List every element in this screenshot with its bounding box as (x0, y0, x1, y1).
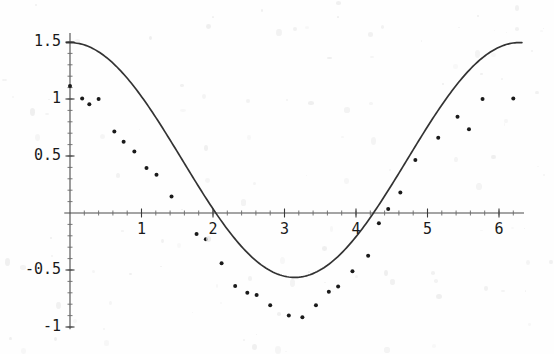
noise-speck (476, 183, 482, 190)
noise-speck (540, 30, 543, 32)
noise-speck (160, 266, 162, 268)
noise-speck (253, 182, 256, 185)
chart-plot-area (0, 0, 554, 354)
noise-speck (121, 230, 123, 232)
noise-speck (212, 16, 215, 17)
noise-speck (511, 227, 514, 229)
noise-speck (371, 137, 376, 145)
y-axis-tick-label: 1.5 (34, 34, 61, 49)
x-axis-tick-label: 2 (193, 222, 233, 237)
noise-speck (528, 323, 530, 326)
noise-speck (21, 348, 26, 354)
data-point (97, 97, 101, 101)
noise-speck (116, 173, 120, 178)
noise-speck (247, 135, 251, 140)
x-axis (64, 209, 524, 218)
noise-speck (51, 255, 53, 257)
noise-speck (344, 107, 350, 113)
noise-speck (180, 109, 185, 112)
noise-speck (341, 136, 344, 138)
noise-speck (549, 260, 553, 265)
data-point (481, 97, 485, 101)
noise-speck (9, 337, 12, 340)
noise-speck (54, 337, 57, 341)
noise-speck (56, 302, 61, 309)
noise-speck (35, 134, 41, 142)
noise-speck (275, 346, 281, 354)
noise-speck (252, 344, 257, 350)
x-axis-tick-label: 1 (122, 222, 162, 237)
noise-speck (368, 32, 373, 37)
data-point (245, 291, 249, 295)
noise-speck (285, 351, 287, 352)
noise-speck (204, 145, 208, 151)
x-axis-tick-label: 3 (265, 222, 305, 237)
data-point (132, 149, 136, 153)
noise-speck (327, 57, 332, 60)
x-axis-tick-label: 5 (408, 222, 448, 237)
noise-speck (75, 39, 80, 43)
noise-speck (30, 108, 35, 115)
noise-speck (421, 40, 423, 42)
noise-speck (248, 276, 252, 281)
data-point (350, 269, 354, 273)
data-point (386, 207, 390, 211)
data-point (255, 293, 259, 297)
noise-speck (290, 279, 295, 287)
data-point (233, 284, 237, 288)
y-axis-tick-label: 1 (52, 91, 61, 106)
noise-speck (2, 79, 7, 82)
data-point (511, 96, 515, 100)
data-point (68, 84, 72, 88)
data-point (467, 127, 471, 131)
noise-speck (537, 166, 539, 168)
noise-speck (515, 27, 519, 31)
noise-speck (324, 282, 325, 283)
noise-speck (246, 99, 250, 103)
noise-speck (531, 50, 534, 52)
noise-speck (305, 26, 309, 29)
noise-speck (535, 91, 539, 95)
noise-speck (261, 9, 264, 12)
data-point (287, 314, 291, 318)
data-point (300, 315, 304, 319)
data-point (413, 158, 417, 162)
data-point (155, 173, 159, 177)
data-point (377, 221, 381, 225)
noise-speck (434, 279, 438, 282)
data-point (268, 303, 272, 307)
data-point (456, 115, 460, 119)
data-point (220, 261, 224, 265)
data-point (336, 285, 340, 289)
data-point (398, 190, 402, 194)
noise-speck (308, 271, 310, 273)
noise-speck (384, 347, 389, 353)
noise-speck (506, 32, 507, 33)
noise-speck (477, 15, 480, 17)
noise-speck (491, 155, 496, 160)
noise-speck (308, 101, 314, 105)
data-point (80, 96, 84, 100)
noise-speck (526, 260, 530, 265)
noise-speck (45, 113, 49, 115)
noise-speck (524, 228, 525, 229)
data-point (436, 136, 440, 140)
noise-speck (369, 102, 373, 105)
noise-speck (277, 312, 282, 316)
noise-speck (100, 134, 105, 139)
y-axis-tick-label: -0.5 (25, 262, 61, 277)
noise-speck (432, 344, 436, 347)
noise-speck (181, 209, 183, 211)
noise-speck (431, 271, 435, 275)
y-axis (66, 33, 75, 329)
data-point (366, 254, 370, 258)
data-point (314, 303, 318, 307)
x-axis-tick-label: 4 (336, 222, 376, 237)
data-point (87, 102, 91, 106)
noise-speck (205, 178, 210, 183)
data-point (112, 129, 116, 133)
x-axis-tick-label: 6 (479, 222, 519, 237)
noise-speck (20, 265, 26, 270)
data-point (122, 140, 126, 144)
data-point (327, 290, 331, 294)
